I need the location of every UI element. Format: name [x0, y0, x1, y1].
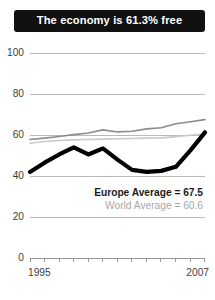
- x-axis-line: [30, 258, 205, 259]
- chart-title-bar: The economy is 61.3% free: [14, 10, 205, 32]
- y-axis-label-0: 0: [0, 253, 24, 263]
- x-axis-label-end: 2007: [186, 268, 209, 278]
- y-axis-label-60: 60: [0, 130, 24, 140]
- legend-item-world-average: World Average = 60.6: [70, 199, 203, 212]
- y-axis-label-20: 20: [0, 212, 24, 222]
- x-axis-label-start: 1995: [28, 268, 51, 278]
- chart-card: The economy is 61.3% free 100 80 60 40 2…: [0, 0, 215, 300]
- y-axis-label-100: 100: [0, 48, 24, 58]
- page-title: The economy is 61.3% free: [37, 15, 183, 26]
- y-axis-label-80: 80: [0, 89, 24, 99]
- series-lines: [30, 53, 205, 258]
- world-average-line: [30, 134, 205, 143]
- legend-item-europe-average: Europe Average = 67.5: [70, 186, 203, 199]
- y-axis-label-40: 40: [0, 171, 24, 181]
- plot-area: [30, 53, 205, 258]
- legend: Europe Average = 67.5 World Average = 60…: [70, 186, 203, 212]
